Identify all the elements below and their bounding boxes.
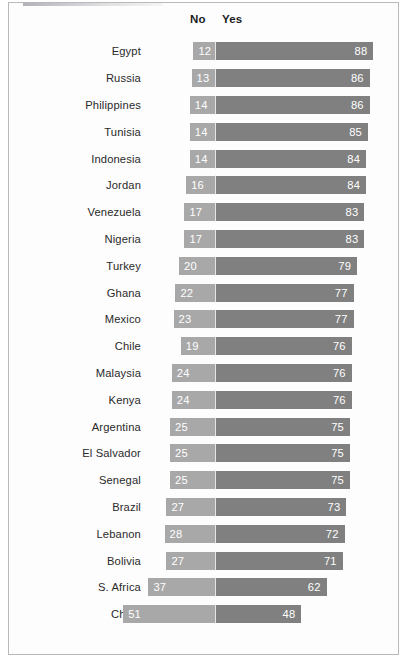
bar-track: 2476 (9, 391, 398, 409)
bar-value-yes: 77 (335, 287, 348, 299)
chart-row: Russia1386 (9, 65, 398, 92)
segment-divider (215, 417, 216, 437)
bar-track: 1783 (9, 230, 398, 248)
bar-value-no: 24 (177, 367, 190, 379)
bar-segment-yes: 71 (215, 552, 343, 570)
bar-segment-yes: 75 (215, 471, 350, 489)
bar-value-no: 13 (197, 72, 210, 84)
chart-row: Egypt1288 (9, 38, 398, 65)
segment-divider (215, 68, 216, 88)
chart-row: China5148 (9, 601, 398, 628)
legend-label-yes: Yes (222, 13, 242, 25)
bar-track: 2872 (9, 525, 398, 543)
bar-value-no: 24 (177, 394, 190, 406)
chart-row: Lebanon2872 (9, 520, 398, 547)
chart-row: Senegal2575 (9, 467, 398, 494)
bar-segment-yes: 73 (215, 498, 346, 516)
bar-segment-no: 24 (172, 391, 215, 409)
segment-divider (215, 283, 216, 303)
bar-value-yes: 73 (328, 501, 341, 513)
bar-value-no: 14 (195, 99, 208, 111)
bar-value-no: 19 (186, 340, 199, 352)
bar-segment-yes: 84 (215, 150, 366, 168)
bar-track: 1976 (9, 337, 398, 355)
bar-value-no: 25 (175, 447, 188, 459)
segment-divider (215, 524, 216, 544)
bar-value-yes: 76 (333, 367, 346, 379)
chart-row: Nigeria1783 (9, 226, 398, 253)
bar-segment-no: 51 (123, 605, 215, 623)
bar-segment-yes: 75 (215, 444, 350, 462)
bar-segment-yes: 72 (215, 525, 345, 543)
chart-row: Tunisia1485 (9, 118, 398, 145)
bar-segment-no: 28 (165, 525, 215, 543)
segment-divider (215, 202, 216, 222)
clipped-top-artifact (23, 3, 163, 6)
segment-divider (215, 577, 216, 597)
bar-value-no: 12 (198, 45, 211, 57)
bar-track: 1288 (9, 42, 398, 60)
bar-segment-yes: 79 (215, 257, 357, 275)
bar-value-yes: 75 (331, 421, 344, 433)
segment-divider (215, 363, 216, 383)
segment-divider (215, 390, 216, 410)
bar-segment-yes: 84 (215, 176, 366, 194)
bar-segment-yes: 85 (215, 123, 368, 141)
bar-segment-no: 24 (172, 364, 215, 382)
bar-segment-no: 14 (190, 96, 215, 114)
bar-segment-yes: 48 (215, 605, 301, 623)
segment-divider (215, 229, 216, 249)
bar-value-no: 16 (191, 179, 204, 191)
segment-divider (215, 149, 216, 169)
chart-row: Mexico2377 (9, 306, 398, 333)
bar-value-yes: 72 (326, 528, 339, 540)
bar-segment-yes: 77 (215, 310, 354, 328)
bar-segment-yes: 86 (215, 96, 370, 114)
bar-value-no: 17 (189, 206, 202, 218)
bar-value-no: 28 (170, 528, 183, 540)
bar-segment-no: 23 (174, 310, 215, 328)
bar-track: 2277 (9, 284, 398, 302)
bar-value-yes: 88 (355, 45, 368, 57)
bar-segment-no: 20 (179, 257, 215, 275)
chart-rows: Egypt1288Russia1386Philippines1486Tunisi… (9, 38, 398, 628)
bar-segment-no: 27 (166, 552, 215, 570)
chart-row: Jordan1684 (9, 172, 398, 199)
bar-value-yes: 83 (346, 206, 359, 218)
bar-segment-no: 25 (170, 418, 215, 436)
bar-value-yes: 84 (347, 153, 360, 165)
bar-segment-no: 37 (148, 578, 215, 596)
chart-row: Indonesia1484 (9, 145, 398, 172)
chart-row: S. Africa3762 (9, 574, 398, 601)
bar-value-no: 14 (195, 126, 208, 138)
segment-divider (215, 604, 216, 624)
bar-segment-yes: 88 (215, 42, 373, 60)
segment-divider (215, 336, 216, 356)
chart-row: Malaysia2476 (9, 360, 398, 387)
bar-value-no: 37 (153, 581, 166, 593)
bar-value-no: 14 (195, 153, 208, 165)
bar-segment-yes: 83 (215, 230, 364, 248)
bar-segment-no: 14 (190, 150, 215, 168)
bar-value-yes: 84 (347, 179, 360, 191)
bar-segment-yes: 86 (215, 69, 370, 87)
segment-divider (215, 175, 216, 195)
bar-track: 2476 (9, 364, 398, 382)
bar-value-no: 17 (189, 233, 202, 245)
bar-segment-no: 14 (190, 123, 215, 141)
bar-value-yes: 83 (346, 233, 359, 245)
bar-segment-yes: 76 (215, 337, 352, 355)
chart-row: Kenya2476 (9, 386, 398, 413)
chart-row: Philippines1486 (9, 92, 398, 119)
chart-frame: No Yes Egypt1288Russia1386Philippines148… (8, 2, 399, 655)
bar-segment-yes: 75 (215, 418, 350, 436)
bar-segment-no: 17 (184, 230, 215, 248)
chart-row: Argentina2575 (9, 413, 398, 440)
bar-track: 2773 (9, 498, 398, 516)
bar-segment-no: 25 (170, 444, 215, 462)
bar-segment-no: 22 (175, 284, 215, 302)
chart-row: Ghana2277 (9, 279, 398, 306)
bar-segment-yes: 77 (215, 284, 354, 302)
segment-divider (215, 309, 216, 329)
bar-track: 1486 (9, 96, 398, 114)
